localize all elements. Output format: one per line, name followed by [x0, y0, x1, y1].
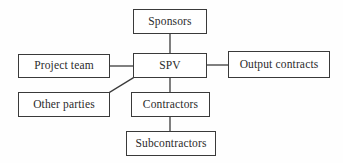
node-project-team-label: Project team	[34, 60, 94, 72]
node-project-team: Project team	[18, 54, 110, 78]
node-subcontractors: Subcontractors	[126, 131, 216, 156]
node-sponsors: Sponsors	[133, 9, 207, 34]
node-other-parties-label: Other parties	[33, 98, 95, 110]
node-subcontractors-label: Subcontractors	[135, 137, 206, 149]
project-structure-diagram: Sponsors SPV Project team Output contrac…	[0, 0, 343, 163]
node-contractors: Contractors	[131, 92, 210, 117]
node-contractors-label: Contractors	[143, 98, 198, 110]
node-other-parties: Other parties	[18, 92, 110, 117]
node-sponsors-label: Sponsors	[148, 15, 191, 27]
node-spv-label: SPV	[159, 59, 181, 71]
node-spv: SPV	[133, 53, 207, 78]
node-output-contracts-label: Output contracts	[240, 58, 319, 70]
node-output-contracts: Output contracts	[228, 51, 330, 78]
edge-other-parties-spv	[110, 78, 133, 92]
